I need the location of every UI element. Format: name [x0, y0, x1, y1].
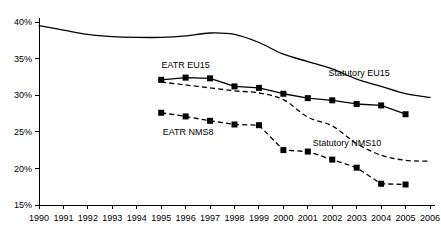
data-point-eatr-eu15 [378, 102, 384, 108]
x-tick-label: 2002 [322, 213, 342, 223]
data-point-eatr-nms8 [378, 181, 384, 187]
x-tick-label: 2000 [273, 213, 293, 223]
data-point-eatr-nms8 [207, 118, 213, 124]
data-point-eatr-nms8 [305, 149, 311, 155]
x-tick-label: 2005 [396, 213, 416, 223]
x-tick-label: 2004 [371, 213, 391, 223]
y-tick-label: 40% [14, 17, 32, 27]
x-tick-label: 1990 [29, 213, 49, 223]
data-point-eatr-eu15 [183, 75, 189, 81]
y-tick-label: 15% [14, 200, 32, 210]
line-chart: 15%20%25%30%35%40% 199019911992199319941… [0, 0, 441, 242]
data-point-eatr-eu15 [232, 83, 238, 89]
data-point-eatr-eu15 [329, 97, 335, 103]
series-label-statutory-eu15: Statutory EU15 [329, 68, 390, 78]
x-axis-ticks: 1990199119921993199419951996199719981999… [29, 205, 440, 223]
x-tick-label: 1997 [200, 213, 220, 223]
y-tick-label: 20% [14, 164, 32, 174]
x-tick-label: 1994 [127, 213, 147, 223]
data-point-eatr-eu15 [305, 95, 311, 101]
x-tick-label: 2003 [347, 213, 367, 223]
series-label-statutory-nms10: Statutory NMS10 [313, 138, 382, 148]
data-point-eatr-eu15 [280, 91, 286, 97]
data-point-eatr-nms8 [354, 165, 360, 171]
y-tick-label: 30% [14, 90, 32, 100]
x-tick-label: 2001 [298, 213, 318, 223]
data-point-eatr-eu15 [207, 75, 213, 81]
x-tick-label: 1998 [224, 213, 244, 223]
y-axis-ticks: 15%20%25%30%35%40% [14, 17, 39, 210]
series-label-eatr-nms8: EATR NMS8 [163, 127, 214, 137]
chart-container: 15%20%25%30%35%40% 199019911992199319941… [0, 0, 441, 242]
series-paths [39, 26, 430, 185]
data-point-eatr-nms8 [256, 122, 262, 128]
data-point-eatr-nms8 [183, 113, 189, 119]
series-line-statutory-nms10 [161, 82, 430, 161]
data-point-eatr-eu15 [158, 77, 164, 83]
x-tick-label: 1991 [53, 213, 73, 223]
x-tick-label: 1992 [78, 213, 98, 223]
y-tick-label: 35% [14, 54, 32, 64]
x-tick-label: 1993 [102, 213, 122, 223]
data-point-eatr-eu15 [403, 111, 409, 117]
data-point-eatr-nms8 [329, 157, 335, 163]
data-point-eatr-nms8 [403, 182, 409, 188]
y-tick-label: 25% [14, 127, 32, 137]
x-tick-label: 1996 [176, 213, 196, 223]
series-label-eatr-eu15: EATR EU15 [161, 60, 209, 70]
data-point-eatr-nms8 [280, 147, 286, 153]
data-point-eatr-nms8 [232, 121, 238, 127]
x-tick-label: 2006 [420, 213, 440, 223]
data-point-eatr-eu15 [256, 85, 262, 91]
data-point-eatr-eu15 [354, 101, 360, 107]
data-point-eatr-nms8 [158, 110, 164, 116]
x-tick-label: 1995 [151, 213, 171, 223]
x-tick-label: 1999 [249, 213, 269, 223]
